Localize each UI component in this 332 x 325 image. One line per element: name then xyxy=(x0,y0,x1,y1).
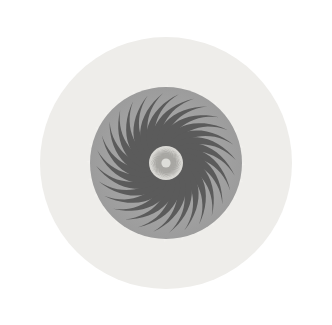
core-center-dot xyxy=(161,158,170,167)
mandala-figure xyxy=(0,0,332,325)
mandala-canvas xyxy=(0,0,332,325)
core-rosette xyxy=(149,146,183,180)
